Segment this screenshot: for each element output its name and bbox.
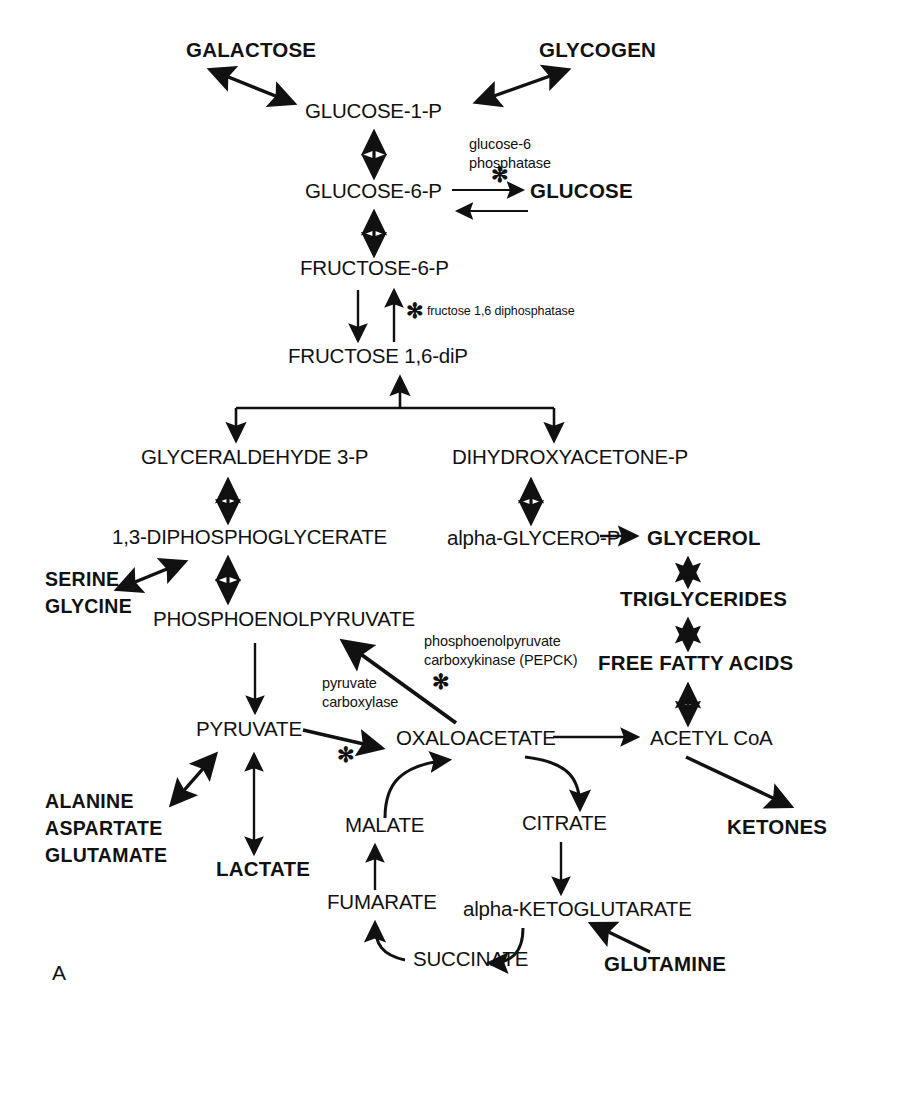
edge-glutamine-ketoglutarate xyxy=(592,924,650,952)
node-oxaloacetate: OXALOACETATE xyxy=(396,728,556,749)
node-succinate: SUCCINATE xyxy=(413,949,528,970)
enzyme-pepck-line1: phosphoenolpyruvate xyxy=(424,632,577,651)
node-glycerol: GLYCEROL xyxy=(647,528,761,549)
node-glucose: GLUCOSE xyxy=(530,181,633,202)
pathway-figure: GALACTOSE GLYCOGEN GLUCOSE-1-P glucose-6… xyxy=(0,0,907,1100)
edge-pyruvate-amino-acids xyxy=(172,755,215,804)
node-fructose-1-6-dip: FRUCTOSE 1,6-diP xyxy=(288,346,468,367)
enzyme-pyruvate-carboxylase: pyruvate carboxylase xyxy=(322,674,398,712)
node-alpha-glycero-p: alpha-GLYCERO-P xyxy=(447,528,620,549)
edge-dpg-serine-glycine xyxy=(118,562,184,589)
panel-label: A xyxy=(52,962,66,983)
star-marker-glucose-6-phosphatase: ✻ xyxy=(491,164,509,185)
node-aspartate: ASPARTATE xyxy=(45,819,163,839)
node-glucose-1-p: GLUCOSE-1-P xyxy=(305,101,442,122)
enzyme-glucose-6-phosphatase-line2: phosphatase xyxy=(469,154,551,173)
star-marker-pyruvate-carboxylase: ✻ xyxy=(337,744,355,765)
node-dihydroxyacetone-p: DIHYDROXYACETONE-P xyxy=(452,447,688,468)
edge-malate-oxaloacetate xyxy=(385,760,448,818)
node-lactate: LACTATE xyxy=(216,859,310,880)
enzyme-pyruvate-carboxylase-line2: carboxylase xyxy=(322,693,398,712)
node-1-3-diphosphoglycerate: 1,3-DIPHOSPHOGLYCERATE xyxy=(112,527,387,548)
arrow-layer xyxy=(0,0,907,1100)
node-alanine: ALANINE xyxy=(45,792,134,812)
node-ketones: KETONES xyxy=(727,817,827,838)
node-citrate: CITRATE xyxy=(522,813,607,834)
enzyme-glucose-6-phosphatase-line1: glucose-6 xyxy=(469,135,551,154)
node-glutamate: GLUTAMATE xyxy=(45,846,167,866)
node-glucose-6-p: GLUCOSE-6-P xyxy=(305,181,442,202)
node-galactose: GALACTOSE xyxy=(186,40,316,61)
node-glutamine: GLUTAMINE xyxy=(604,954,726,975)
node-glycogen: GLYCOGEN xyxy=(539,40,656,61)
star-marker-fructose-diphosphatase: ✻ xyxy=(406,300,424,321)
node-fructose-6-p: FRUCTOSE-6-P xyxy=(300,258,449,279)
node-pyruvate: PYRUVATE xyxy=(196,719,302,740)
star-marker-pepck: ✻ xyxy=(432,671,450,692)
node-phosphoenolpyruvate: PHOSPHOENOLPYRUVATE xyxy=(153,609,415,630)
edge-oxaloacetate-citrate xyxy=(525,757,580,808)
node-serine: SERINE xyxy=(45,570,119,590)
enzyme-pepck: phosphoenolpyruvate carboxykinase (PEPCK… xyxy=(424,632,577,670)
node-free-fatty-acids: FREE FATTY ACIDS xyxy=(598,653,793,674)
enzyme-fructose-diphosphatase: fructose 1,6 diphosphatase xyxy=(427,304,575,320)
edge-succinate-fumarate xyxy=(375,924,405,960)
node-glycine: GLYCINE xyxy=(45,597,132,617)
edge-glycogen-glucose1p xyxy=(477,70,567,102)
enzyme-pepck-line2: carboxykinase (PEPCK) xyxy=(424,651,577,670)
edge-acetylcoa-ketones xyxy=(686,757,790,806)
enzyme-pyruvate-carboxylase-line1: pyruvate xyxy=(322,674,398,693)
node-triglycerides: TRIGLYCERIDES xyxy=(620,589,787,610)
edge-galactose-glucose1p xyxy=(211,70,293,103)
node-alpha-ketoglutarate: alpha-KETOGLUTARATE xyxy=(463,899,692,920)
node-glyceraldehyde-3-p: GLYCERALDEHYDE 3-P xyxy=(141,447,368,468)
node-malate: MALATE xyxy=(345,815,424,836)
node-fumarate: FUMARATE xyxy=(327,892,437,913)
enzyme-glucose-6-phosphatase: glucose-6 phosphatase xyxy=(469,135,551,173)
node-acetyl-coa: ACETYL CoA xyxy=(650,728,773,749)
